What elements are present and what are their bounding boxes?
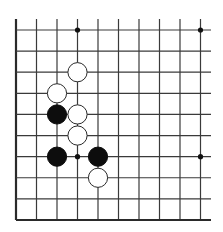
white-stone[interactable] [68, 105, 87, 124]
white-stone[interactable] [68, 63, 87, 82]
star-point-icon [75, 154, 80, 159]
white-stone[interactable] [88, 168, 107, 187]
black-stone[interactable] [47, 105, 66, 124]
black-stone[interactable] [88, 147, 107, 166]
black-stone[interactable] [47, 147, 66, 166]
star-point-icon [198, 154, 203, 159]
star-point-icon [198, 27, 203, 32]
star-point-icon [75, 27, 80, 32]
go-board[interactable] [0, 0, 223, 232]
white-stone[interactable] [47, 84, 66, 103]
white-stone[interactable] [68, 126, 87, 145]
board-grid [16, 19, 211, 220]
